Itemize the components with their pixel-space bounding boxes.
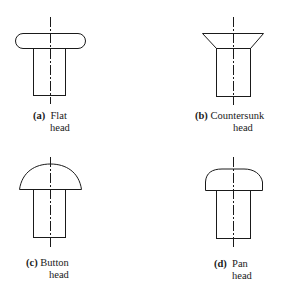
rivet-diagram [0, 0, 283, 290]
button-head-rivet [20, 157, 82, 248]
label-c-name: Button [40, 257, 69, 268]
label-a: (a) Flat [33, 110, 67, 122]
label-b-tag: (b) [195, 110, 208, 121]
label-b-suffix: head [233, 122, 253, 134]
label-d-name: Pan [232, 258, 248, 269]
label-a-tag: (a) [33, 110, 45, 121]
label-c-tag: (c) [26, 257, 38, 268]
label-d-tag: (d) [214, 258, 227, 269]
label-b: (b) Countersunk [195, 110, 264, 122]
label-a-name: Flat [51, 110, 67, 121]
pan-head-rivet [206, 157, 263, 249]
label-a-suffix: head [50, 122, 70, 134]
label-c-suffix: head [49, 269, 69, 281]
label-c: (c) Button [26, 257, 69, 269]
label-d: (d) Pan [214, 258, 248, 270]
button-head-shank [34, 190, 66, 238]
flat-head-shank [34, 49, 66, 96]
countersunk-head-rivet [203, 17, 264, 105]
flat-head-rivet [16, 17, 86, 104]
label-b-name: Countersunk [210, 110, 264, 121]
label-d-suffix: head [232, 270, 252, 282]
